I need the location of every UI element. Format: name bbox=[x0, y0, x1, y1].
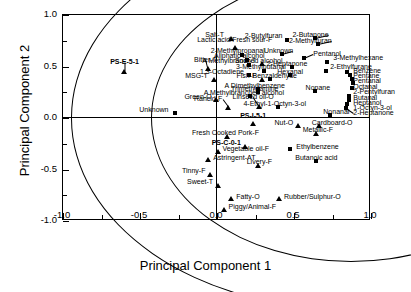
data-point-marker bbox=[250, 121, 256, 126]
data-point-label: 2-Butylfuran bbox=[245, 32, 283, 40]
data-point-marker bbox=[207, 172, 213, 177]
x-tick bbox=[256, 215, 257, 219]
y-tick-label: -1.0 bbox=[23, 214, 57, 225]
data-point-marker bbox=[325, 60, 329, 64]
data-point-label: Unknown bbox=[139, 106, 168, 114]
data-point-marker bbox=[288, 147, 292, 151]
y-tick bbox=[63, 221, 69, 222]
data-point-label: Tinny-F bbox=[182, 167, 205, 175]
data-point-label: 1,3-Octadiene bbox=[200, 68, 244, 76]
x-tick-label: -0.5 bbox=[119, 209, 159, 220]
data-point-label: 4-Ethyl-1-Octyn-3-ol bbox=[243, 100, 306, 108]
x-axis-title: Principal Component 1 bbox=[0, 258, 411, 273]
data-point-label: 3-Methylhexane bbox=[333, 54, 383, 62]
y-tick-label: 0.5 bbox=[23, 60, 57, 71]
data-point-marker bbox=[324, 69, 328, 73]
y-tick bbox=[63, 118, 69, 119]
data-point-marker bbox=[215, 183, 221, 188]
data-point-label: PS-E-5-1 bbox=[110, 58, 139, 66]
data-point-label: Butanoic acid bbox=[295, 154, 337, 162]
y-tick bbox=[63, 41, 67, 42]
data-point-marker bbox=[276, 196, 282, 201]
data-point-marker bbox=[173, 111, 177, 115]
data-point-marker bbox=[205, 157, 211, 162]
data-point-label: Benzaldehyde bbox=[253, 72, 297, 80]
data-point-marker bbox=[121, 69, 127, 74]
data-point-label: Rubber/Sulphur-O bbox=[284, 193, 341, 201]
x-tick-label: 0.5 bbox=[273, 209, 313, 220]
data-point-label: Nonanal bbox=[323, 108, 349, 116]
data-point-marker bbox=[247, 73, 251, 77]
y-tick-label: -0.5 bbox=[23, 163, 57, 174]
data-point-label: 2-Heptanone bbox=[353, 109, 393, 117]
y-tick bbox=[63, 170, 69, 171]
data-point-label: Sweet-T bbox=[187, 178, 213, 186]
data-point-marker bbox=[225, 105, 231, 110]
data-point-label: A Methylbranched alcohol bbox=[204, 89, 284, 97]
data-point-label: Green-O bbox=[184, 93, 211, 101]
y-tick bbox=[63, 144, 67, 145]
data-point-label: Ethylbenzene bbox=[296, 143, 338, 151]
y-tick-label: 0.0 bbox=[23, 111, 57, 122]
x-tick bbox=[333, 215, 334, 219]
data-point-label: Livery-F bbox=[247, 158, 272, 166]
data-point-label: Unknown bbox=[264, 47, 293, 55]
y-tick bbox=[63, 195, 67, 196]
x-tick-label: 1.0 bbox=[350, 209, 390, 220]
data-point-label: Nonane bbox=[306, 84, 331, 92]
data-point-label: Metallic-F bbox=[303, 126, 333, 134]
pca-biplot-figure: Principal Component 2 PS-E-5-1Bitter-TSo… bbox=[0, 0, 411, 292]
data-point-label: PS-I-5-1 bbox=[240, 112, 266, 120]
y-tick bbox=[63, 15, 69, 16]
data-point-label: Fresh Cooked Pork-F bbox=[192, 129, 259, 137]
y-tick bbox=[63, 67, 69, 68]
data-point-label: Fatty-O bbox=[236, 193, 259, 201]
x-tick bbox=[102, 215, 103, 219]
data-point-marker bbox=[295, 123, 301, 128]
data-point-marker bbox=[213, 97, 219, 102]
data-point-label: 2-Methylfuran bbox=[289, 37, 332, 45]
x-tick-label: 0.0 bbox=[196, 209, 236, 220]
plot-area: PS-E-5-1Bitter-TSour-TMSG-TFish-FLinseed… bbox=[62, 14, 370, 220]
data-point-label: Nut-O bbox=[275, 119, 294, 127]
data-point-marker bbox=[228, 196, 234, 201]
y-tick bbox=[63, 92, 67, 93]
x-tick bbox=[179, 215, 180, 219]
y-tick-label: 1.0 bbox=[23, 8, 57, 19]
data-point-label: Vegetable oil-F bbox=[222, 145, 269, 153]
data-point-marker bbox=[211, 77, 217, 82]
